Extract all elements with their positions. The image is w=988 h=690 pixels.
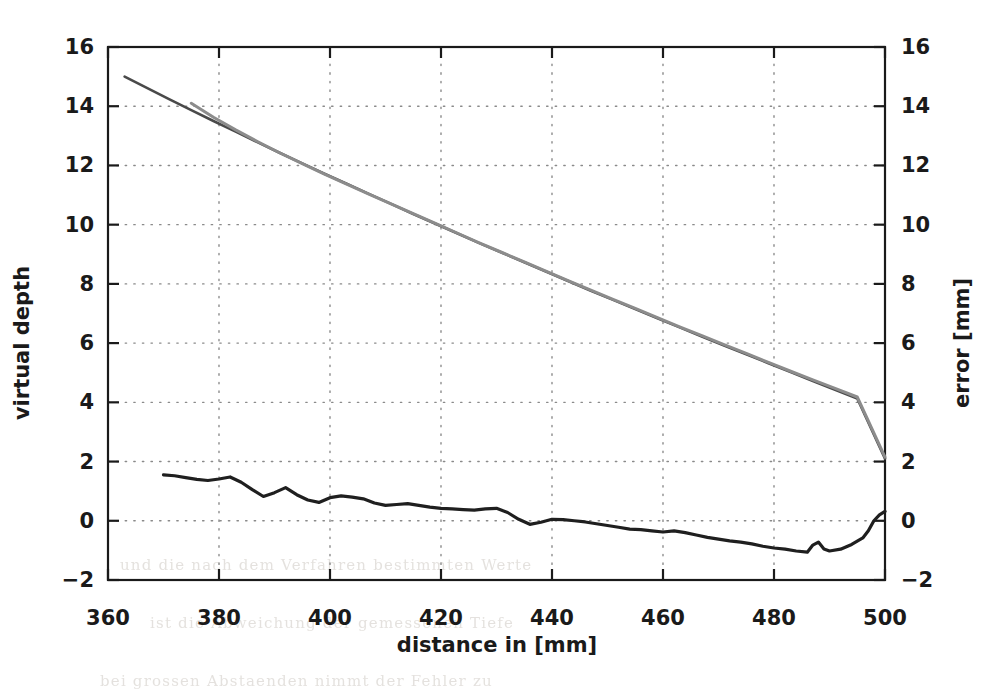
x-axis-tick-label: 360 — [86, 606, 130, 630]
y-axis-right-tick-label: 2 — [901, 450, 916, 474]
x-axis-tick-label: 440 — [530, 606, 574, 630]
series-line-2 — [164, 475, 886, 552]
y-axis-left-title: virtual depth — [10, 266, 34, 420]
y-axis-right-title: error [mm] — [950, 278, 974, 408]
y-axis-left-tick-label: 12 — [65, 153, 94, 177]
x-axis-tick-label: 500 — [863, 606, 907, 630]
x-axis-tick-label: 420 — [419, 606, 463, 630]
y-axis-left-tick-label: 16 — [65, 35, 94, 59]
x-axis-tick-label: 480 — [752, 606, 796, 630]
y-axis-right-tick-label: 10 — [901, 213, 930, 237]
y-axis-left-tick-label: 14 — [65, 94, 94, 118]
y-axis-left-tick-label: 10 — [65, 213, 94, 237]
y-axis-right-tick-label: −2 — [901, 568, 933, 592]
x-axis-tick-label: 460 — [641, 606, 685, 630]
y-axis-right-tick-label: 4 — [901, 390, 916, 414]
series-line-0 — [125, 77, 885, 459]
y-axis-left-tick-label: 4 — [79, 390, 94, 414]
y-axis-right-tick-label: 0 — [901, 509, 916, 533]
y-axis-right-tick-label: 12 — [901, 153, 930, 177]
y-axis-left-tick-label: 6 — [79, 331, 94, 355]
y-axis-left-tick-label: −2 — [62, 568, 94, 592]
series-line-1 — [191, 103, 885, 457]
y-axis-right-tick-label: 6 — [901, 331, 916, 355]
y-axis-left-tick-label: 0 — [79, 509, 94, 533]
x-axis-tick-label: 400 — [308, 606, 352, 630]
x-axis-title: distance in [mm] — [397, 633, 597, 657]
y-axis-right-tick-label: 8 — [901, 272, 916, 296]
y-axis-left-tick-label: 2 — [79, 450, 94, 474]
y-axis-right-tick-label: 16 — [901, 35, 930, 59]
y-axis-right-tick-label: 14 — [901, 94, 930, 118]
x-axis-tick-label: 380 — [197, 606, 241, 630]
y-axis-left-tick-label: 8 — [79, 272, 94, 296]
